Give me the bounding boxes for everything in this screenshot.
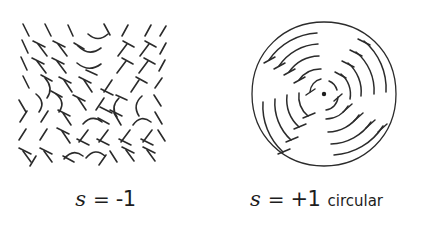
s-plus-one-circular-panel: s = +1 circular: [211, 0, 422, 228]
caption-symbol: s: [75, 187, 86, 211]
arc-r62-d: [263, 102, 290, 154]
arc-r62-b: [358, 39, 386, 92]
arc-r50-b: [350, 50, 374, 94]
caption-s-minus-one: s = -1: [0, 176, 211, 222]
s-plus-one-circular-diagram: [211, 0, 422, 178]
arc-r14-c: [329, 81, 337, 90]
arc-r14-a: [306, 79, 321, 95]
caption-value: +1: [291, 187, 321, 211]
s-minus-one-panel: s = -1: [0, 0, 211, 228]
arc-r50-c: [331, 120, 375, 144]
caption-value: -1: [116, 187, 136, 211]
caption-equals: =: [268, 187, 285, 211]
caption-s-plus-one-circular: s = +1 circular: [211, 176, 422, 222]
caption-equals: =: [93, 187, 110, 211]
caption-qualifier: circular: [327, 192, 383, 210]
arc-r38-a: [284, 56, 319, 75]
s-minus-one-diagram: [0, 0, 211, 178]
arc-r62-a: [264, 33, 317, 63]
caption-symbol: s: [250, 187, 261, 211]
arc-r26-b: [335, 72, 350, 99]
nail-marks-group: [19, 24, 166, 166]
arc-r14-b: [326, 94, 342, 110]
figure-canvas: s = -1: [0, 0, 422, 228]
arc-r38-c: [328, 113, 363, 132]
center-dot: [322, 92, 326, 96]
arc-r26-c: [326, 104, 352, 119]
arc-r26-d: [299, 93, 315, 118]
